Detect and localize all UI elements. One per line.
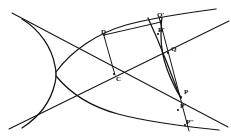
label-p-double: P''	[186, 119, 194, 126]
point-marker-c	[113, 73, 115, 75]
label-p: P	[184, 89, 188, 96]
hyperbola-figure: D C Q' R' Q P P' P''	[0, 0, 231, 136]
label-q: Q	[171, 46, 176, 53]
label-q-prime: Q'	[157, 12, 164, 19]
label-d: D	[101, 29, 106, 36]
asymptotes-group	[9, 13, 229, 129]
point-marker-q-prime	[160, 20, 162, 22]
top-arc-segment	[56, 9, 216, 72]
asymptote-upper-left-to-lower-right	[12, 13, 228, 127]
point-marker-p	[180, 96, 182, 98]
figure-canvas	[0, 0, 231, 136]
chord-d-to-c	[104, 36, 115, 75]
secant-line	[159, 17, 189, 131]
label-p-prime: P'	[180, 103, 186, 110]
hyperbola-top-arc	[56, 9, 216, 72]
label-r-prime: R'	[158, 27, 165, 34]
bottom-arc-segment	[56, 76, 219, 130]
secant-line-group	[159, 17, 189, 131]
point-marker-p-prime	[177, 109, 179, 111]
hyperbola-bottom-arc	[56, 76, 219, 130]
point-marker-q	[167, 52, 169, 54]
hyperbola-left-branch	[22, 19, 56, 128]
label-c: C	[116, 76, 121, 83]
